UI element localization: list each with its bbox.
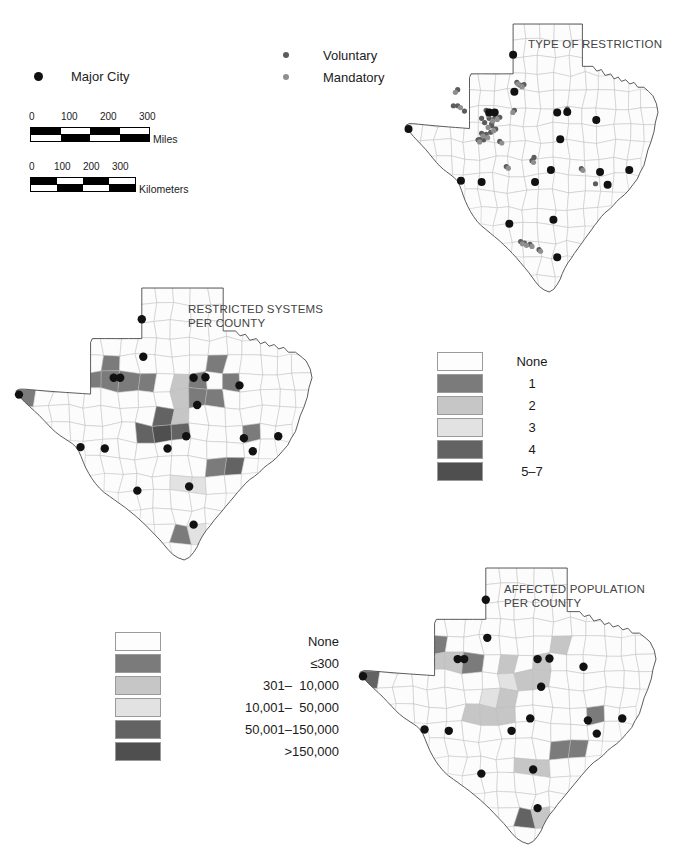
- legend-row: 2: [437, 394, 567, 416]
- legend-row: 301– 10,000: [115, 674, 339, 696]
- major-city-marker: [596, 168, 604, 176]
- major-city-marker: [457, 177, 465, 185]
- major-city-marker: [592, 116, 600, 124]
- county-polygon: [508, 24, 525, 41]
- major-city-marker: [510, 88, 518, 96]
- county-polygon: [205, 389, 225, 408]
- legend-label: 10,001– 50,000: [171, 701, 339, 714]
- county-polygon: [83, 371, 101, 388]
- legend-label: >150,000: [171, 745, 339, 758]
- county-polygon: [614, 157, 627, 173]
- county-polygon: [604, 656, 624, 671]
- filled-circle-icon: [34, 72, 43, 81]
- county-polygon: [83, 388, 101, 409]
- county-polygon: [516, 636, 533, 656]
- county-polygon: [567, 671, 584, 691]
- restriction-marker: [485, 135, 490, 140]
- county-polygon: [427, 669, 445, 690]
- major-city-marker: [547, 166, 555, 174]
- county-polygon: [496, 758, 514, 773]
- county-polygon: [427, 687, 447, 708]
- county-polygon: [549, 758, 570, 778]
- county-polygon: [604, 705, 620, 721]
- restriction-marker: [458, 105, 463, 110]
- county-polygon: [152, 475, 170, 490]
- scale-bar-kilometers: 0 100 200 300 Kilometers: [29, 162, 229, 202]
- county-polygon: [260, 375, 280, 390]
- legend-restricted-systems: None 1 2 3 4 5–7: [437, 350, 567, 482]
- county-polygon: [153, 489, 172, 509]
- legend-label: 3: [497, 421, 567, 434]
- major-city-marker: [101, 444, 109, 452]
- county-polygon: [567, 191, 585, 210]
- county-polygon: [50, 422, 71, 441]
- county-polygon: [598, 75, 614, 90]
- restriction-marker: [593, 181, 598, 186]
- county-polygon: [155, 355, 174, 374]
- county-polygon: [603, 721, 623, 741]
- major-city-marker: [163, 444, 171, 452]
- major-city-marker: [460, 655, 468, 663]
- major-city-marker: [477, 769, 485, 777]
- county-polygon: [539, 90, 554, 109]
- county-polygon: [83, 425, 103, 441]
- legend-row: 4: [437, 438, 567, 460]
- legend-row: 10,001– 50,000: [115, 696, 339, 718]
- county-polygon: [242, 340, 261, 355]
- county-polygon: [414, 704, 430, 724]
- legend-row: None: [437, 350, 567, 372]
- legend-label: 5–7: [497, 465, 567, 478]
- major-city-marker: [593, 729, 601, 737]
- county-polygon: [206, 371, 223, 389]
- major-city-marker: [604, 181, 612, 189]
- restriction-marker: [499, 140, 504, 145]
- major-city-marker: [533, 804, 541, 812]
- county-polygon: [226, 426, 244, 444]
- restriction-marker: [462, 109, 467, 114]
- major-city-marker: [482, 596, 490, 604]
- major-city-marker: [274, 432, 282, 440]
- county-polygon: [139, 508, 154, 524]
- legend-item-voluntary: Voluntary: [283, 44, 384, 66]
- county-polygon: [83, 338, 104, 356]
- county-polygon: [522, 222, 538, 241]
- map-type-of-restriction[interactable]: TYPE OF RESTRICTION: [400, 18, 682, 308]
- major-city-marker: [235, 381, 243, 389]
- map-affected-population[interactable]: AFFECTED POPULATION PER COUNTY: [352, 558, 682, 858]
- restriction-marker: [531, 155, 536, 160]
- county-polygon: [624, 671, 640, 689]
- legend-label: 50,001–150,000: [171, 723, 339, 736]
- scale-bar-miles: 0 100 200 300 Miles: [29, 112, 229, 152]
- county-polygon: [631, 124, 645, 142]
- major-city-marker: [584, 716, 592, 724]
- county-polygon: [537, 275, 556, 292]
- county-polygon: [445, 636, 464, 652]
- legend-label: 301– 10,000: [171, 679, 339, 692]
- legend-label: ≤300: [171, 657, 339, 670]
- county-polygon: [452, 156, 465, 175]
- county-polygon: [394, 704, 415, 723]
- county-polygon: [155, 288, 174, 303]
- legend-label: 1: [497, 377, 567, 390]
- county-polygon: [478, 73, 496, 91]
- county-polygon: [605, 636, 622, 656]
- county-polygon: [496, 707, 516, 726]
- major-city-marker: [507, 727, 515, 735]
- scale-tick-miles-200: 200: [100, 112, 117, 122]
- restriction-marker: [490, 118, 495, 123]
- county-polygon: [537, 223, 556, 245]
- scale-tick-miles-100: 100: [61, 112, 78, 122]
- county-polygon: [170, 337, 190, 357]
- county-polygon: [239, 355, 263, 375]
- legend-swatch: [115, 676, 161, 695]
- county-polygon: [621, 635, 635, 656]
- major-city-marker: [193, 401, 201, 409]
- major-city-marker: [240, 434, 248, 442]
- legend-swatch: [437, 352, 483, 371]
- legend-row: 3: [437, 416, 567, 438]
- county-polygon: [444, 619, 465, 638]
- restriction-marker: [510, 110, 515, 115]
- county-polygon: [223, 389, 240, 409]
- restriction-marker: [531, 160, 536, 165]
- map-restricted-systems[interactable]: RESTRICTED SYSTEMS PER COUNTY: [8, 278, 338, 573]
